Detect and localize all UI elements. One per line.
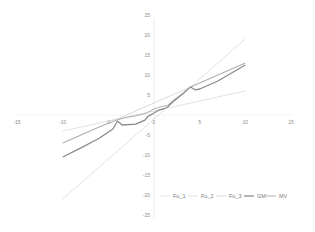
legend-label: Fu_2: [201, 193, 214, 199]
y-tick-label: -20: [143, 192, 150, 198]
y-tick-label: -15: [143, 172, 150, 178]
x-tick-label: -10: [59, 119, 66, 125]
legend-label: Fu_3: [229, 193, 242, 199]
y-tick-label: 5: [147, 92, 150, 98]
x-tick-label: 10: [243, 119, 249, 125]
y-tick-label: 20: [144, 32, 150, 38]
x-tick-labels: -15-10-5051015: [13, 119, 294, 125]
legend: Fu_1Fu_2Fu_3GMMV: [160, 193, 288, 199]
line-chart: -15-10-5051015 252015105-5-10-15-20-25 F…: [0, 0, 315, 232]
legend-label: MV: [279, 193, 288, 199]
plot-area: -15-10-5051015 252015105-5-10-15-20-25: [13, 12, 294, 218]
y-tick-label: -5: [146, 132, 151, 138]
x-tick-label: -15: [13, 119, 20, 125]
legend-label: Fu_1: [173, 193, 186, 199]
y-tick-label: -25: [143, 212, 150, 218]
y-tick-label: 25: [144, 12, 150, 18]
y-tick-label: 10: [144, 72, 150, 78]
x-tick-label: 5: [198, 119, 201, 125]
x-tick-label: 15: [288, 119, 294, 125]
y-tick-label: 15: [144, 52, 150, 58]
legend-label: GM: [257, 193, 266, 199]
y-tick-label: -10: [143, 152, 150, 158]
